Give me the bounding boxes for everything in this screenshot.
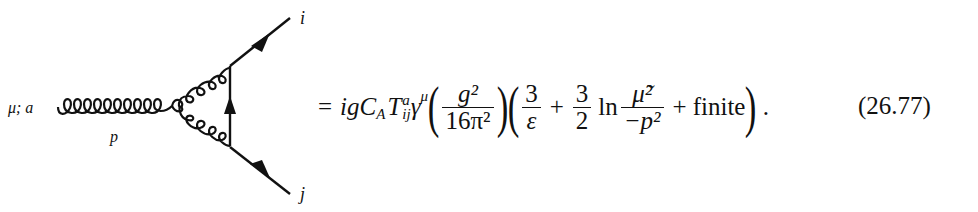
gamma-matrix: γ — [411, 93, 421, 121]
pole-fraction: 3 ε — [522, 81, 541, 134]
generator-T: T — [387, 93, 401, 121]
external-gluon-line — [58, 99, 172, 114]
pole-denominator: ε — [523, 108, 539, 134]
right-paren-2: ) — [745, 78, 757, 136]
prefactor: igC — [340, 93, 376, 121]
incoming-quark-arrow — [250, 160, 270, 178]
pole-numerator: 3 — [522, 81, 541, 107]
plus-sign-1: + — [550, 93, 564, 121]
equals-sign: = — [318, 93, 332, 121]
log-coefficient: 3 2 — [573, 81, 592, 134]
log-coefficient-denominator: 2 — [573, 108, 592, 134]
log-argument-numerator: μ̃² — [629, 81, 655, 107]
feynman-diagram: μ; a p i j — [0, 0, 320, 212]
log-argument: μ̃² −p² — [621, 81, 664, 134]
plus-sign-2: + — [673, 93, 687, 121]
log-argument-denominator: −p² — [621, 108, 664, 134]
incoming-quark-label: j — [300, 184, 305, 205]
coupling-fraction: g² 16π² — [442, 81, 493, 134]
period: . — [763, 93, 769, 121]
generator-subscript: ij — [402, 107, 410, 121]
internal-quark-arrow — [224, 96, 236, 114]
left-paren-2: ( — [508, 78, 520, 136]
momentum-label: p — [110, 128, 118, 146]
ln-operator: ln — [598, 93, 617, 121]
equation-number: (26.77) — [858, 92, 931, 120]
feynman-diagram-graphic — [0, 0, 320, 212]
coupling-denominator: 16π² — [442, 108, 493, 134]
left-paren-1: ( — [428, 78, 440, 136]
outgoing-quark-arrow — [251, 33, 270, 52]
log-coefficient-numerator: 3 — [573, 81, 592, 107]
ca-subscript: A — [376, 106, 385, 123]
coupling-numerator: g² — [455, 81, 481, 107]
right-paren-1: ) — [496, 78, 508, 136]
external-gluon-label: μ; a — [8, 99, 33, 117]
equation: = igC A T a ij γ μ ( g² 16π² ) ( 3 ε + 3… — [318, 62, 769, 152]
outgoing-quark-label: i — [300, 8, 305, 29]
lower-internal-gluon — [172, 106, 230, 146]
upper-internal-gluon — [172, 68, 230, 107]
generator-indices: a ij — [402, 93, 410, 121]
finite-term: finite — [693, 93, 746, 121]
generator-superscript: a — [402, 93, 410, 107]
